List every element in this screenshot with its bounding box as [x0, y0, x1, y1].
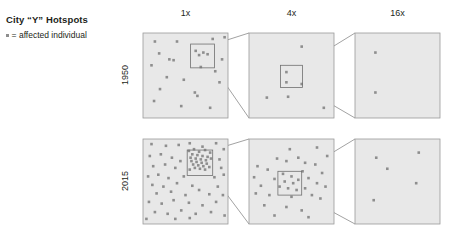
affected-individual-dot: [266, 168, 269, 171]
affected-individual-dot: [176, 182, 179, 185]
panel-1950-16x[interactable]: [355, 33, 440, 118]
affected-individual-dot: [260, 184, 263, 187]
panel-background: [355, 33, 440, 118]
affected-individual-dot: [221, 58, 224, 61]
affected-individual-dot: [153, 100, 156, 103]
panel-background: [249, 33, 334, 118]
affected-individual-dot: [255, 192, 258, 195]
affected-individual-dot: [149, 155, 152, 158]
affected-individual-dot: [184, 194, 187, 197]
affected-individual-dot: [215, 142, 218, 145]
panel-background: [355, 139, 440, 224]
scatter-panels: [0, 0, 451, 236]
affected-individual-dot: [222, 173, 225, 176]
affected-individual-dot: [218, 158, 221, 161]
affected-individual-dot: [183, 175, 186, 178]
affected-individual-dot: [201, 155, 204, 158]
affected-individual-dot: [172, 199, 175, 202]
affected-individual-dot: [183, 78, 186, 81]
affected-individual-dot: [172, 59, 175, 62]
affected-individual-dot: [290, 196, 293, 199]
affected-individual-dot: [180, 105, 183, 108]
affected-individual-dot: [201, 145, 204, 148]
affected-individual-dot: [211, 38, 214, 41]
affected-individual-dot: [292, 182, 295, 185]
affected-individual-dot: [150, 64, 153, 67]
affected-individual-dot: [374, 51, 377, 54]
affected-individual-dot: [210, 157, 213, 160]
affected-individual-dot: [218, 81, 221, 84]
affected-individual-dot: [285, 206, 288, 209]
panel-2015-16x[interactable]: [355, 139, 440, 224]
affected-individual-dot: [300, 45, 303, 48]
panel-2015-4x[interactable]: [249, 139, 334, 224]
affected-individual-dot: [205, 162, 208, 165]
affected-individual-dot: [206, 53, 209, 56]
affected-individual-dot: [196, 154, 199, 157]
affected-individual-dot: [295, 189, 298, 192]
affected-individual-dot: [199, 167, 202, 170]
affected-individual-dot: [326, 155, 329, 158]
affected-individual-dot: [297, 179, 300, 182]
affected-individual-dot: [256, 165, 259, 168]
affected-individual-dot: [283, 180, 286, 183]
affected-individual-dot: [155, 192, 158, 195]
affected-individual-dot: [282, 173, 285, 176]
affected-individual-dot: [176, 40, 179, 43]
affected-individual-dot: [273, 178, 276, 181]
affected-individual-dot: [166, 213, 169, 216]
affected-individual-dot: [191, 184, 194, 187]
affected-individual-dot: [290, 175, 293, 178]
affected-individual-dot: [208, 193, 211, 196]
affected-individual-dot: [195, 161, 198, 164]
affected-individual-dot: [160, 153, 163, 156]
affected-individual-dot: [167, 177, 170, 180]
affected-individual-dot: [285, 71, 288, 74]
affected-individual-dot: [200, 158, 203, 161]
affected-individual-dot: [266, 96, 269, 99]
affected-individual-dot: [263, 204, 266, 207]
panel-1950-4x[interactable]: [249, 33, 334, 118]
affected-individual-dot: [311, 194, 314, 197]
panel-1950-1x[interactable]: [143, 33, 228, 118]
affected-individual-dot: [214, 70, 217, 73]
affected-individual-dot: [372, 199, 375, 202]
affected-individual-dot: [174, 218, 177, 221]
affected-individual-dot: [386, 167, 389, 170]
affected-individual-dot: [204, 168, 207, 171]
affected-individual-dot: [179, 160, 182, 163]
affected-individual-dot: [166, 76, 169, 79]
affected-individual-dot: [287, 95, 290, 98]
affected-individual-dot: [202, 51, 205, 54]
affected-individual-dot: [154, 40, 157, 43]
affected-individual-dot: [201, 204, 204, 207]
affected-individual-dot: [151, 184, 154, 187]
affected-individual-dot: [198, 150, 201, 153]
affected-individual-dot: [191, 153, 194, 156]
affected-individual-dot: [223, 36, 226, 39]
affected-individual-dot: [415, 182, 418, 185]
affected-individual-dot: [160, 202, 163, 205]
affected-individual-dot: [154, 211, 157, 214]
affected-individual-dot: [196, 95, 199, 98]
affected-individual-dot: [307, 216, 310, 219]
affected-individual-dot: [300, 209, 303, 212]
affected-individual-dot: [323, 107, 326, 110]
panel-2015-1x[interactable]: [143, 139, 228, 224]
affected-individual-dot: [194, 157, 197, 160]
affected-individual-dot: [197, 164, 200, 167]
affected-individual-dot: [222, 194, 225, 197]
affected-individual-dot: [188, 201, 191, 204]
affected-individual-dot: [174, 167, 177, 170]
affected-individual-dot: [205, 159, 208, 162]
affected-individual-dot: [417, 151, 420, 154]
affected-individual-dot: [208, 166, 211, 169]
affected-individual-dot: [165, 145, 168, 148]
affected-individual-dot: [194, 213, 197, 216]
affected-individual-dot: [220, 167, 223, 170]
affected-individual-dot: [222, 148, 225, 151]
affected-individual-dot: [190, 160, 193, 163]
affected-individual-dot: [194, 91, 197, 94]
affected-individual-dot: [217, 185, 220, 188]
affected-individual-dot: [209, 107, 212, 110]
